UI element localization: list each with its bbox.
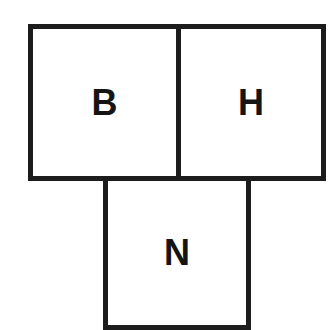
cell-b: B [28, 24, 181, 181]
cell-h-label: H [238, 85, 264, 121]
cell-n-label: N [164, 235, 190, 271]
cell-b-label: B [92, 85, 118, 121]
cell-h: H [176, 24, 326, 181]
cell-n: N [103, 176, 251, 330]
